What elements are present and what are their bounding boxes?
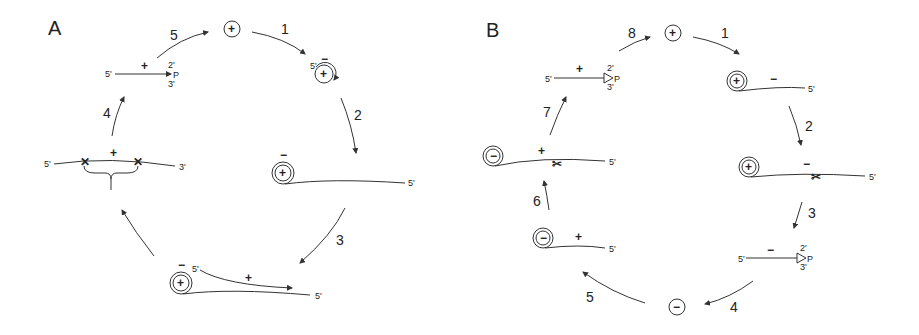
a-node-after-step-2: + − 5'	[272, 148, 415, 188]
svg-text:2': 2'	[168, 60, 175, 70]
scissors-icon: ✂	[552, 157, 562, 171]
a-arrow-step-4	[112, 97, 124, 136]
svg-text:+: +	[228, 22, 235, 36]
svg-text:5': 5'	[192, 264, 199, 274]
a-arrow-step-1	[252, 32, 305, 54]
panel-a: A + 1 + − 5' 2 + − 5' 3	[44, 17, 415, 301]
svg-text:+: +	[576, 62, 583, 76]
a-node-after-step-3: + − 5' 5' +	[170, 258, 322, 301]
panel-a-label: A	[48, 17, 62, 39]
svg-text:+: +	[110, 146, 117, 160]
svg-text:5': 5'	[310, 61, 317, 71]
b-step-8-label: 8	[628, 25, 636, 41]
a-arrow-step-5	[157, 32, 208, 58]
b-node-linear-plus: 5' + 2' P 3'	[545, 62, 620, 92]
svg-text:+: +	[279, 166, 286, 180]
svg-text:3': 3'	[179, 162, 186, 172]
b-step-1-label: 1	[721, 25, 729, 41]
svg-text:3': 3'	[800, 262, 807, 272]
svg-text:5': 5'	[808, 84, 815, 94]
svg-text:5': 5'	[609, 244, 616, 254]
svg-text:5': 5'	[105, 69, 112, 79]
b-step-4-label: 4	[730, 299, 738, 315]
svg-text:+: +	[575, 230, 582, 244]
a-node-cleavage: 5' 3' + ✕ ✕	[44, 146, 186, 190]
panel-b: B + 1 + 5' − 2 + 5' − ✂	[483, 19, 876, 315]
scissors-icon: ✕	[80, 155, 90, 169]
svg-text:−: −	[767, 243, 774, 257]
svg-text:−: −	[280, 148, 287, 162]
svg-text:3': 3'	[607, 82, 614, 92]
a-step-5-label: 5	[170, 27, 178, 43]
b-node-after-step-2: + 5' − ✂	[739, 157, 876, 184]
b-node-after-step-1: + 5' −	[727, 71, 815, 94]
b-step-5-label: 5	[586, 289, 594, 305]
a-step-3-label: 3	[336, 232, 344, 248]
svg-text:3': 3'	[168, 79, 175, 89]
svg-text:−: −	[490, 149, 497, 163]
a-node-after-step-1: + − 5'	[310, 52, 336, 83]
a-arrow-return	[122, 210, 154, 256]
svg-text:2': 2'	[607, 63, 614, 73]
b-node-after-step-5: − 5' +	[533, 228, 616, 254]
svg-text:+: +	[320, 67, 327, 81]
b-arrow-step-2	[789, 106, 801, 145]
b-start-circle: +	[665, 25, 681, 41]
svg-text:−: −	[540, 231, 547, 245]
svg-text:+: +	[177, 276, 184, 290]
svg-text:−: −	[770, 72, 777, 86]
svg-text:+: +	[141, 59, 148, 73]
svg-text:5': 5'	[738, 254, 745, 264]
svg-text:−: −	[178, 258, 185, 272]
b-node-after-step-6: − 5' + ✂	[483, 144, 616, 171]
svg-text:+: +	[669, 26, 676, 40]
svg-text:5': 5'	[44, 159, 51, 169]
b-arrow-step-6	[544, 181, 549, 210]
a-step-2-label: 2	[354, 107, 362, 123]
svg-text:−: −	[803, 157, 810, 171]
scissors-icon: ✂	[811, 170, 821, 184]
svg-text:P: P	[614, 74, 620, 84]
svg-text:−: −	[321, 52, 328, 66]
b-minus-circle: −	[669, 299, 685, 315]
svg-text:−: −	[673, 300, 680, 314]
svg-text:+: +	[245, 271, 252, 285]
svg-text:+: +	[538, 144, 545, 158]
replication-cycle-figure: A + 1 + − 5' 2 + − 5' 3	[0, 0, 919, 335]
svg-text:5': 5'	[869, 172, 876, 182]
svg-text:2': 2'	[800, 243, 807, 253]
a-step-4-label: 4	[103, 105, 111, 121]
svg-text:+: +	[733, 74, 740, 88]
b-node-linear-minus: 5' − 2' P 3'	[738, 243, 813, 272]
svg-text:5': 5'	[408, 178, 415, 188]
b-arrow-step-4	[705, 281, 753, 304]
panel-b-label: B	[486, 19, 499, 41]
svg-text:5': 5'	[609, 157, 616, 167]
b-step-2-label: 2	[805, 118, 813, 134]
a-step-1-label: 1	[281, 21, 289, 37]
a-node-linear-product: 5' + 2' P 3'	[105, 59, 179, 89]
b-arrow-step-3	[794, 202, 802, 228]
b-step-7-label: 7	[543, 104, 551, 120]
svg-text:5': 5'	[315, 291, 322, 301]
b-step-6-label: 6	[533, 193, 541, 209]
svg-text:+: +	[745, 160, 752, 174]
svg-text:5': 5'	[545, 74, 552, 84]
b-step-3-label: 3	[808, 205, 816, 221]
b-arrow-step-7	[550, 97, 566, 135]
b-arrow-step-1	[693, 37, 739, 54]
svg-text:P: P	[807, 254, 813, 264]
a-start-circle: +	[224, 21, 240, 37]
